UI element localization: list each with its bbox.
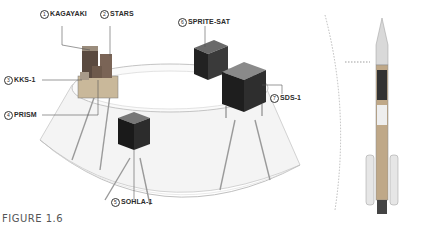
h-iia-rocket	[366, 18, 398, 214]
label-kagayaki: 1KAGAYAKI	[40, 10, 87, 19]
label-sohla-1: 5SOHLA-1	[111, 198, 152, 207]
label-stars: 2STARS	[100, 10, 134, 19]
zoom-bracket	[325, 15, 341, 210]
label-sds-1: 7SDS-1	[270, 94, 301, 103]
figure-caption: FIGURE 1.6	[2, 213, 63, 224]
label-kks-1: 3KKS-1	[4, 76, 36, 85]
diagram-canvas	[0, 0, 421, 234]
label-prism: 4PRISM	[4, 111, 37, 120]
label-sprite-sat: 6SPRITE-SAT	[178, 18, 230, 27]
satellite-sohla-1	[118, 112, 150, 150]
